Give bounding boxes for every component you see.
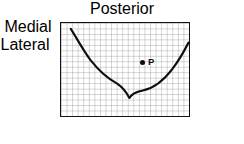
anatomical-grid-diagram: Posterior Medial Lateral Anterior P: [0, 0, 244, 144]
contour-curve: [61, 23, 189, 116]
direction-label-posterior: Posterior: [0, 0, 244, 18]
point-p-label: P: [148, 56, 154, 67]
grid-plot-box: [60, 22, 190, 117]
point-p-dot-icon: [140, 60, 146, 66]
direction-label-lateral: Lateral: [0, 36, 50, 54]
direction-label-medial: Medial: [0, 18, 56, 36]
